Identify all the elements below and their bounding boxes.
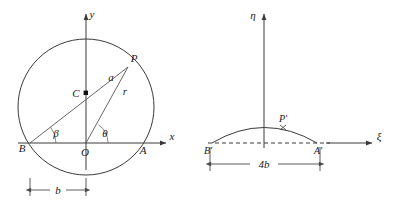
label-x-axis: x xyxy=(169,130,175,142)
label-dimension-4b: 4b xyxy=(259,158,271,170)
label-point-B: B xyxy=(19,142,26,154)
label-point-A-prime: A' xyxy=(313,145,323,156)
label-angle-theta: θ xyxy=(102,127,108,139)
label-angle-beta: β xyxy=(52,127,59,139)
label-point-A: A xyxy=(139,144,147,156)
label-point-B-prime: B' xyxy=(204,145,213,156)
geometry-figure-svg: y x B O A C P a r β θ b xyxy=(0,0,395,206)
label-point-P-prime: P' xyxy=(278,113,288,124)
left-panel: y x B O A C P a r β θ b xyxy=(18,8,175,196)
figure-root: y x B O A C P a r β θ b xyxy=(0,0,395,206)
label-y-axis: y xyxy=(89,8,95,20)
label-point-C: C xyxy=(72,87,80,99)
label-point-O: O xyxy=(81,146,89,158)
label-dimension-b: b xyxy=(55,184,61,196)
label-point-P: P xyxy=(130,52,138,64)
label-segment-r: r xyxy=(123,85,128,97)
label-xi-axis: ξ xyxy=(377,130,382,143)
label-eta-axis: η xyxy=(250,9,255,21)
label-segment-a: a xyxy=(108,71,114,83)
center-point-marker xyxy=(84,91,88,95)
right-panel: η ξ B' A' P' 4b xyxy=(204,9,382,171)
